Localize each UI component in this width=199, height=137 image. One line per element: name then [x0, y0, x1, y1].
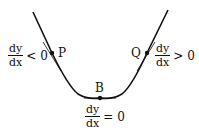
denominator: dx — [9, 56, 22, 68]
point-q — [145, 51, 149, 55]
numerator: dy — [155, 43, 170, 56]
slope-zero-annotation: dydx = 0 — [85, 104, 125, 129]
denominator: dx — [86, 117, 99, 129]
label-b: B — [95, 81, 104, 95]
numerator: dy — [8, 43, 23, 56]
numerator: dy — [85, 104, 100, 117]
slope-positive-annotation: dydx > 0 — [155, 43, 195, 68]
slope-negative-annotation: dydx < 0 — [8, 43, 48, 68]
label-q: Q — [131, 46, 141, 60]
relation: > 0 — [173, 50, 195, 62]
point-p — [50, 51, 54, 55]
relation: = 0 — [103, 111, 125, 123]
relation: < 0 — [26, 50, 48, 62]
label-p: P — [58, 46, 66, 60]
point-b — [98, 96, 102, 100]
denominator: dx — [156, 56, 169, 68]
